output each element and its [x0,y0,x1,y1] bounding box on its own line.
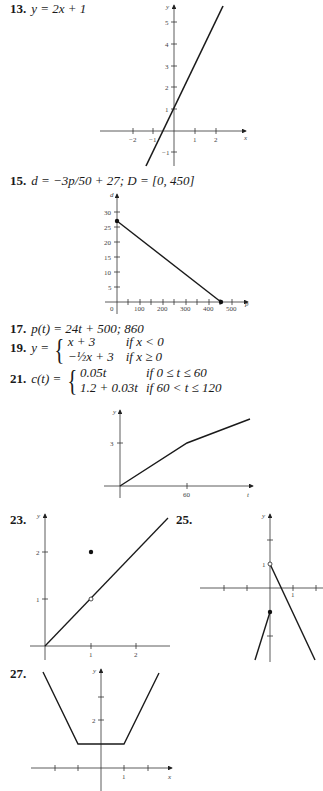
graph-15 [105,194,248,314]
x-tick-label: 1 [89,651,93,659]
graph-23 [30,514,170,660]
y-tick-label: 25 [104,224,112,232]
y-tick-label: 10 [104,269,112,277]
right-piece-line [270,564,315,660]
y-tick-label: 5 [165,19,169,27]
x-tick-label: 2 [214,136,218,144]
y-tick-label: 1 [36,596,40,604]
point-open [268,562,272,566]
y-tick-label: 1 [262,561,266,569]
x-tick-label: −2 [129,136,137,144]
y-tick-label: 30 [104,209,112,217]
point-filled [268,610,272,614]
x-axis-label: x [167,773,172,781]
x-axis-label: p [244,300,249,308]
line-y-2x-plus-1 [146,6,223,166]
y-tick-label: 4 [165,41,169,49]
y-tick-label: 20 [104,239,112,247]
x-tick-label: 60 [183,491,191,499]
x-axis-label: x [243,134,248,142]
line-y-equals-x [45,518,168,646]
y-tick-label: 3 [165,63,169,71]
graph-21-labels: y t 60 3 [110,408,250,499]
y-axis-label: y [112,408,117,416]
x-tick-label: −1 [149,136,157,144]
y-axis-label: d [110,191,114,199]
y-axis-label: y [36,512,41,520]
graph-15-labels: d p 0 100 200 300 400 500 5 10 15 20 25 … [104,191,249,313]
origin-label: 0 [110,305,114,313]
y-tick-label: 5 [108,284,112,292]
point-filled [89,550,93,554]
x-tick-label: 300 [180,305,191,313]
graph-23-labels: y 1 2 1 2 [36,512,138,659]
y-axis-label: y [165,3,170,11]
x-tick-label: 100 [134,305,145,313]
line-c-of-t [120,419,250,486]
y-tick-label: 3 [110,440,114,448]
endpoint-filled [115,219,119,223]
y-tick-label: 2 [165,84,169,92]
y-tick-label: 2 [92,717,96,725]
y-tick-label: −1 [162,149,170,157]
graph-27-labels: y x 1 2 [92,667,172,781]
y-tick-label: 1 [165,106,169,114]
x-tick-label: 1 [291,591,295,599]
x-tick-label: 500 [226,305,237,313]
graph-13 [100,5,246,166]
line-d-of-p [117,221,221,302]
x-tick-label: 2 [134,651,138,659]
x-tick-label: 1 [122,773,126,781]
endpoint-filled [219,300,223,304]
graph-21 [104,410,253,498]
y-axis-label: y [261,512,266,520]
graph-25 [200,514,323,662]
graph-13-labels: y x −2 −1 1 2 1 2 3 4 5 −1 [129,3,248,157]
y-tick-label: 2 [36,549,40,557]
x-tick-label: 400 [203,305,214,313]
x-axis-label: t [247,491,250,499]
graphs-canvas: y x −2 −1 1 2 1 2 3 4 5 −1 d p [0,0,323,791]
y-tick-label: 15 [104,254,112,262]
x-tick-label: 200 [157,305,168,313]
x-tick-label: 1 [193,136,197,144]
point-open [89,597,93,601]
graph-27 [31,669,172,791]
y-axis-label: y [92,667,97,675]
graph-25-labels: y 1 1 [261,512,295,599]
